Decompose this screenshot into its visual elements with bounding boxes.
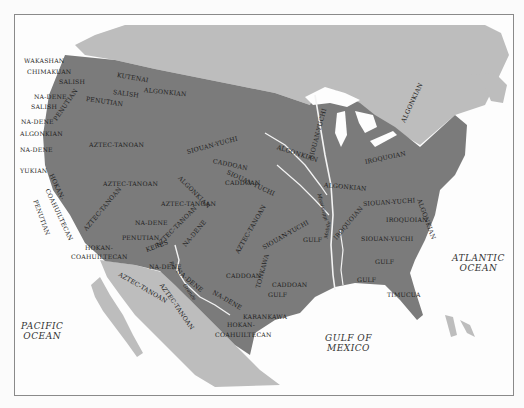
language-family-label: NA-DENE bbox=[20, 147, 53, 153]
ocean-label-line2: OCEAN bbox=[452, 263, 505, 273]
ocean-label-line2: MEXICO bbox=[325, 343, 372, 353]
language-family-label: IROQUOIAN bbox=[386, 217, 428, 223]
ocean-label-line2: OCEAN bbox=[21, 331, 63, 341]
bahamas-islands bbox=[445, 315, 457, 337]
language-family-label: COAHUILTECAN bbox=[215, 332, 272, 338]
language-family-label: AZTEC-TANOAN bbox=[161, 201, 216, 207]
language-family-label: HOKAN- bbox=[227, 322, 255, 328]
language-family-label: SIOUAN-YUCHI bbox=[361, 236, 413, 242]
language-family-label: AZTEC-TANOAN bbox=[89, 142, 144, 148]
language-family-label: ALGONKIAN bbox=[20, 131, 63, 137]
language-family-label: GULF bbox=[357, 277, 376, 283]
ocean-label-gulf: GULF OFMEXICO bbox=[325, 333, 372, 354]
ocean-label-pacific: PACIFICOCEAN bbox=[21, 321, 63, 342]
language-family-label: SALISH bbox=[31, 104, 57, 110]
language-family-label: YUKIAN bbox=[20, 168, 47, 174]
language-family-label: TIMUCUA bbox=[387, 292, 421, 298]
language-family-label: COAHUILTECAN bbox=[71, 254, 128, 260]
map-frame: PACIFICOCEANATLANTICOCEANGULF OFMEXICO W… bbox=[14, 14, 514, 396]
language-family-label: GULF bbox=[303, 237, 322, 243]
ocean-label-atlantic: ATLANTICOCEAN bbox=[452, 253, 505, 274]
language-family-label: AZTEC-TANOAN bbox=[103, 181, 158, 187]
language-family-label: NA-DENE bbox=[34, 94, 67, 100]
caribbean-islands bbox=[460, 320, 475, 337]
ocean-label-line1: GULF OF bbox=[325, 333, 372, 343]
language-family-label: CHIMAKUAN bbox=[27, 69, 72, 75]
language-family-label: CADDOAN bbox=[272, 282, 307, 288]
language-family-label: GULF bbox=[375, 259, 394, 265]
language-family-label: PENUTIAN bbox=[122, 235, 159, 241]
ocean-label-line1: PACIFIC bbox=[21, 321, 63, 331]
language-family-label: SALISH bbox=[59, 79, 85, 85]
language-family-label: NA-DENE bbox=[135, 220, 168, 226]
language-family-label: HOKAN- bbox=[85, 245, 113, 251]
language-family-label: KARANKAWA bbox=[243, 314, 287, 320]
language-family-label: GULF bbox=[268, 292, 287, 298]
language-family-label: CADDOAN bbox=[225, 180, 260, 186]
language-family-label: NA-DENE bbox=[21, 119, 54, 125]
language-family-label: WAKASHAN bbox=[24, 58, 64, 64]
ocean-label-line1: ATLANTIC bbox=[452, 253, 505, 263]
